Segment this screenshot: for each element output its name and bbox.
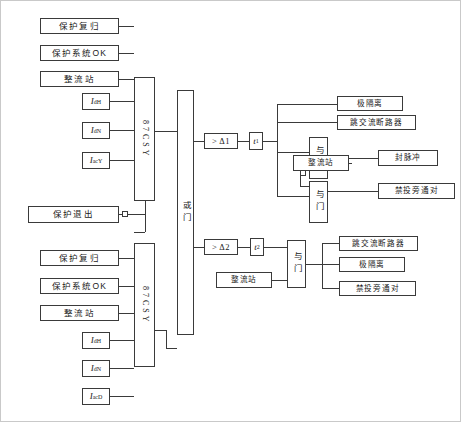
output-box-pole-isolation-1[interactable]: 极隔离 — [337, 96, 403, 111]
current-subscript: dN — [94, 128, 101, 134]
current-subscript: dH — [94, 99, 101, 105]
relay-block-87csy-lower[interactable]: 87CSY — [134, 243, 155, 367]
and-gate-label: 与门 — [314, 190, 323, 214]
input-label: 保护复归 — [59, 22, 100, 31]
output-label: 禁投旁通对 — [356, 285, 400, 293]
and-gate-3[interactable]: 与门 — [287, 240, 306, 288]
current-box-idh-lower[interactable]: IdH — [82, 332, 110, 349]
comparator-label: > Δ1 — [212, 137, 230, 146]
current-box-iacd[interactable]: IacD — [82, 388, 110, 405]
input-box-rectifier-upper[interactable]: 整流站 — [40, 71, 119, 87]
condition-box-rectifier-branch1[interactable]: 整流站 — [293, 155, 349, 171]
input-box-rectifier-lower[interactable]: 整流站 — [40, 305, 119, 321]
input-box-prot-system-ok-lower[interactable]: 保护系统OK — [40, 278, 119, 294]
current-subscript: acY — [93, 158, 103, 164]
output-label: 跳交流断路器 — [350, 119, 403, 127]
current-box-idh-upper[interactable]: IdH — [82, 93, 110, 110]
timer-subscript: 2 — [257, 244, 260, 250]
output-label: 极隔离 — [357, 100, 383, 108]
output-box-inhibit-bypass-pair-1[interactable]: 禁投旁通对 — [378, 183, 455, 199]
relay-label: 87CSY — [141, 286, 149, 325]
timer-subscript: 1 — [256, 138, 259, 144]
input-box-prot-reset-lower[interactable]: 保护复归 — [40, 250, 119, 266]
or-gate[interactable]: 或门 — [177, 90, 194, 335]
timer-t2[interactable]: t2 — [250, 238, 264, 256]
and-gate-2[interactable]: 与门 — [309, 181, 328, 223]
condition-box-rectifier-branch2[interactable]: 整流站 — [216, 272, 272, 288]
output-box-trip-ac-breaker-1[interactable]: 跳交流断路器 — [337, 115, 416, 130]
comparator-delta-2[interactable]: > Δ2 — [204, 239, 238, 255]
current-subscript: acD — [93, 394, 103, 400]
timer-t1[interactable]: t1 — [249, 132, 263, 150]
output-box-trip-ac-breaker-2[interactable]: 跳交流断路器 — [339, 236, 418, 251]
input-label: 整流站 — [64, 75, 95, 84]
input-label: 保护系统OK — [52, 282, 107, 291]
comparator-delta-1[interactable]: > Δ1 — [204, 133, 238, 149]
output-label: 封脉冲 — [395, 154, 421, 162]
output-box-inhibit-bypass-pair-2[interactable]: 禁投旁通对 — [339, 281, 416, 296]
input-label: 整流站 — [64, 309, 95, 318]
output-box-pole-isolation-2[interactable]: 极隔离 — [339, 257, 405, 272]
output-label: 跳交流断路器 — [352, 240, 405, 248]
current-box-idn-lower[interactable]: IdN — [82, 360, 110, 377]
output-label: 极隔离 — [359, 261, 385, 269]
output-box-block-pulse[interactable]: 封脉冲 — [378, 150, 438, 166]
condition-label: 整流站 — [308, 159, 334, 167]
comparator-label: > Δ2 — [212, 243, 230, 252]
current-subscript: dH — [94, 338, 101, 344]
current-box-iacy[interactable]: IacY — [82, 152, 110, 169]
input-box-prot-reset-upper[interactable]: 保护复归 — [40, 18, 119, 34]
and-gate-label: 与门 — [292, 252, 301, 276]
input-box-prot-system-ok-upper[interactable]: 保护系统OK — [40, 45, 119, 61]
current-subscript: dN — [94, 366, 101, 372]
diagram-canvas: 保护复归 保护系统OK 整流站 IdH IdN IacY 保护退出 保护复归 保… — [0, 0, 461, 422]
input-box-protection-exit[interactable]: 保护退出 — [28, 206, 119, 223]
input-label: 保护系统OK — [52, 49, 107, 58]
or-gate-label: 或门 — [181, 201, 190, 225]
current-box-idn-upper[interactable]: IdN — [82, 122, 110, 139]
condition-label: 整流站 — [231, 276, 257, 284]
output-label: 禁投旁通对 — [395, 187, 439, 195]
input-label: 保护复归 — [59, 254, 100, 263]
input-label: 保护退出 — [53, 210, 94, 219]
relay-label: 87CSY — [141, 120, 149, 159]
relay-block-87csy-upper[interactable]: 87CSY — [134, 77, 155, 201]
